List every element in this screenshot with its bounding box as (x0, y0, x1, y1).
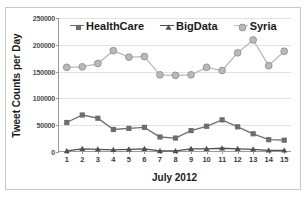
legend-swatch (160, 21, 174, 30)
square-marker-icon (282, 138, 287, 143)
x-tick-label: 4 (111, 155, 115, 164)
square-marker-icon (157, 134, 162, 139)
series-syria (63, 37, 287, 79)
legend-swatch (70, 21, 84, 30)
legend-item-healthcare[interactable]: HealthCare (70, 20, 144, 32)
legend-swatch (234, 21, 248, 30)
circle-marker-icon (126, 54, 133, 61)
circle-marker-icon (219, 67, 226, 74)
circle-marker-icon (265, 62, 272, 69)
y-tick-label: 50000 (37, 122, 55, 129)
x-tick-label: 7 (158, 155, 162, 164)
circle-marker-icon (234, 49, 241, 56)
circle-marker-icon (239, 24, 246, 31)
legend-item-bigdata[interactable]: BigData (160, 20, 218, 32)
x-tick-label: 1 (65, 155, 69, 164)
square-marker-icon (204, 124, 209, 129)
square-marker-icon (76, 24, 81, 29)
y-tick-label: 100000 (33, 95, 55, 102)
x-tick-label: 11 (218, 155, 226, 164)
y-tick-mark (56, 152, 59, 153)
square-marker-icon (95, 116, 100, 121)
x-tick-label: 3 (96, 155, 100, 164)
circle-marker-icon (188, 71, 195, 78)
x-tick-label: 2 (80, 155, 84, 164)
series-lines (59, 18, 292, 152)
x-tick-label: 14 (265, 155, 273, 164)
y-axis-title-text: Tweet Counts per Day (11, 33, 22, 137)
x-tick-label: 6 (142, 155, 146, 164)
y-tick-label: 200000 (33, 41, 55, 48)
y-tick-label: 0 (51, 149, 55, 156)
circle-marker-icon (250, 37, 257, 44)
x-tick-label: 5 (127, 155, 131, 164)
circle-marker-icon (63, 64, 70, 71)
circle-marker-icon (281, 48, 288, 55)
triangle-marker-icon (166, 24, 172, 29)
square-marker-icon (188, 128, 193, 133)
x-tick-label: 12 (233, 155, 241, 164)
circle-marker-icon (157, 71, 164, 78)
legend-label: BigData (176, 20, 218, 32)
square-marker-icon (111, 127, 116, 132)
square-marker-icon (235, 124, 240, 129)
x-axis-title: July 2012 (58, 172, 291, 183)
chart-legend: HealthCareBigDataSyria (64, 18, 288, 33)
square-marker-icon (173, 135, 178, 140)
circle-marker-icon (203, 64, 210, 71)
square-marker-icon (80, 112, 85, 117)
series-line (67, 40, 284, 75)
y-tick-label: 150000 (33, 68, 55, 75)
legend-item-syria[interactable]: Syria (234, 20, 277, 32)
x-tick-label: 8 (173, 155, 177, 164)
series-bigdata (64, 145, 287, 153)
circle-marker-icon (94, 60, 101, 67)
circle-marker-icon (110, 47, 117, 54)
x-tick-label: 9 (189, 155, 193, 164)
y-tick-label: 250000 (33, 15, 55, 22)
x-tick-label: 13 (249, 155, 257, 164)
legend-label: HealthCare (86, 20, 144, 32)
series-healthcare (64, 112, 287, 142)
legend-label: Syria (250, 20, 277, 32)
chart-figure: Tweet Counts per Day 0500001000001500002… (0, 0, 308, 200)
square-marker-icon (266, 137, 271, 142)
circle-marker-icon (79, 63, 86, 70)
square-marker-icon (142, 125, 147, 130)
triangle-marker-icon (164, 23, 173, 32)
x-axis-title-text: July 2012 (152, 172, 197, 183)
y-axis-title: Tweet Counts per Day (9, 18, 23, 152)
x-tick-label: 15 (280, 155, 288, 164)
circle-marker-icon (238, 23, 247, 32)
circle-marker-icon (172, 72, 179, 79)
square-marker-icon (220, 117, 225, 122)
circle-marker-icon (141, 53, 148, 60)
plot-area: 050000100000150000200000250000 123456789… (58, 18, 291, 152)
square-marker-icon (251, 131, 256, 136)
square-marker-icon (74, 23, 83, 32)
x-tick-label: 10 (202, 155, 210, 164)
square-marker-icon (126, 126, 131, 131)
square-marker-icon (64, 120, 69, 125)
